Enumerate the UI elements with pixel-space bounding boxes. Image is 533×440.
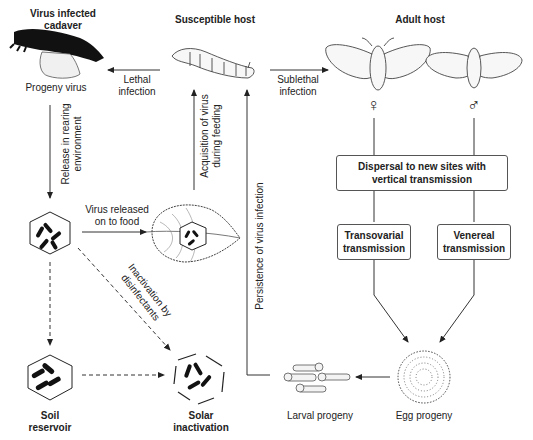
susceptible-host-title: Susceptible host [160, 14, 270, 26]
larval-progeny-label: Larval progeny [278, 410, 362, 422]
solar-inactivation-label: Solar inactivation [166, 410, 236, 434]
male-moth-icon [426, 48, 522, 88]
solar-line2: inactivation [166, 422, 236, 434]
egg-progeny-icon [398, 351, 450, 403]
adult-host-title: Adult host [380, 14, 460, 26]
male-symbol: ♂ [467, 96, 481, 114]
transovarial-line2: transmission [343, 242, 405, 255]
transovarial-line1: Transovarial [343, 229, 405, 242]
leaf-icon [146, 205, 240, 262]
virus-particles-icon [30, 212, 70, 254]
cadaver-title-line2: cadaver [18, 20, 108, 32]
dispersal-line2: vertical transmission [358, 173, 486, 186]
dispersal-box: Dispersal to new sites with vertical tra… [336, 155, 508, 191]
release-environment-label: Release in rearing environment [60, 94, 84, 194]
female-moth-icon [326, 38, 431, 90]
sublethal-line2: infection [270, 86, 326, 98]
female-symbol: ♀ [367, 96, 381, 114]
lethal-infection-label: Lethal infection [112, 74, 162, 98]
solar-inactivation-icon [174, 354, 224, 404]
acquisition-line1: Acquisition of virus [199, 81, 211, 191]
sublethal-line1: Sublethal [270, 74, 326, 86]
virus-food-line2: on to food [82, 216, 152, 228]
progeny-virus-label: Progeny virus [16, 82, 96, 94]
larva-icon [172, 49, 254, 78]
persistence-label: Persistence of virus infection [254, 166, 266, 326]
soil-reservoir-label: Soil reservoir [20, 410, 80, 434]
venereal-box: Venereal transmission [437, 224, 511, 260]
virus-food-line1: Virus released [82, 204, 152, 216]
lethal-line2: infection [112, 86, 162, 98]
release-line2: environment [72, 94, 84, 194]
solar-line1: Solar [166, 410, 236, 422]
cadaver-title-line1: Virus infected [18, 8, 108, 20]
egg-progeny-label: Egg progeny [386, 410, 462, 422]
venereal-line2: transmission [443, 242, 505, 255]
larval-progeny-icon [284, 363, 350, 392]
soil-reservoir-icon [28, 355, 72, 400]
virus-food-label: Virus released on to food [82, 204, 152, 228]
soil-line2: reservoir [20, 422, 80, 434]
diagram-canvas [0, 0, 533, 440]
acquisition-label: Acquisition of virus during feeding [199, 81, 223, 191]
sublethal-infection-label: Sublethal infection [270, 74, 326, 98]
dispersal-line1: Dispersal to new sites with [358, 160, 486, 173]
cadaver-title: Virus infected cadaver [18, 8, 108, 32]
acquisition-line2: during feeding [211, 81, 223, 191]
venereal-line1: Venereal [443, 229, 505, 242]
release-line1: Release in rearing [60, 94, 72, 194]
transovarial-box: Transovarial transmission [337, 224, 411, 260]
soil-line1: Soil [20, 410, 80, 422]
cadaver-icon [10, 29, 104, 78]
lethal-line1: Lethal [112, 74, 162, 86]
